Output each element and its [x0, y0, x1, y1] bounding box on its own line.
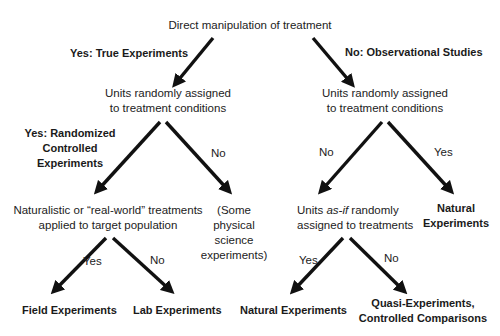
- as-if-pre: Units: [297, 204, 326, 216]
- node-natural-experiments-bottom: Natural Experiments: [240, 303, 347, 318]
- label-naturalistic-no: No: [150, 253, 165, 268]
- node-quasi-line1: Quasi-Experiments,: [359, 296, 487, 311]
- node-left-random-line1: Units randomly assigned: [105, 86, 231, 101]
- node-quasi-line2: Controlled Comparisons: [359, 311, 487, 326]
- node-naturalistic-line2: applied to target population: [13, 218, 202, 233]
- node-physical-line3: science: [201, 233, 267, 248]
- node-right-random-line2: to treatment conditions: [322, 101, 448, 116]
- node-as-if-line1: Units as-if randomly: [297, 203, 413, 218]
- node-physical-line4: experiments): [201, 248, 267, 263]
- node-natural-experiments-right: Natural Experiments: [423, 201, 489, 231]
- node-physical-line1: (Some: [201, 203, 267, 218]
- label-naturalistic-yes: Yes: [83, 254, 102, 269]
- node-right-random-line1: Units randomly assigned: [322, 86, 448, 101]
- node-as-if: Units as-if randomly assigned to treatme…: [297, 203, 413, 233]
- label-rce-line1: Yes: Randomized: [24, 126, 115, 141]
- label-left-yes-rce: Yes: Randomized Controlled Experiments: [24, 126, 115, 171]
- label-right-yes: Yes: [434, 145, 453, 160]
- node-natural-right-line2: Experiments: [423, 216, 489, 231]
- node-as-if-line2: assigned to treatments: [297, 218, 413, 233]
- node-field-experiments: Field Experiments: [22, 303, 117, 318]
- node-physical-line2: physical: [201, 218, 267, 233]
- node-left-random: Units randomly assigned to treatment con…: [105, 86, 231, 116]
- root-node: Direct manipulation of treatment: [169, 18, 332, 33]
- as-if-emphasis: as-if: [326, 204, 348, 216]
- node-naturalistic-line1: Naturalistic or “real-world” treatments: [13, 203, 202, 218]
- label-root-yes: Yes: True Experiments: [70, 46, 188, 61]
- node-lab-experiments: Lab Experiments: [133, 303, 222, 318]
- label-asif-yes: Yes: [299, 253, 318, 268]
- node-quasi-experiments: Quasi-Experiments, Controlled Comparison…: [359, 296, 487, 326]
- node-naturalistic: Naturalistic or “real-world” treatments …: [13, 203, 202, 233]
- as-if-post: randomly: [348, 204, 399, 216]
- node-right-random: Units randomly assigned to treatment con…: [322, 86, 448, 116]
- node-natural-right-line1: Natural: [423, 201, 489, 216]
- node-left-random-line2: to treatment conditions: [105, 101, 231, 116]
- label-right-no: No: [319, 145, 334, 160]
- label-left-no: No: [211, 146, 226, 161]
- label-rce-line3: Experiments: [24, 156, 115, 171]
- label-asif-no: No: [384, 251, 399, 266]
- node-physical-science: (Some physical science experiments): [201, 203, 267, 263]
- label-root-no: No: Observational Studies: [345, 45, 483, 60]
- label-rce-line2: Controlled: [24, 141, 115, 156]
